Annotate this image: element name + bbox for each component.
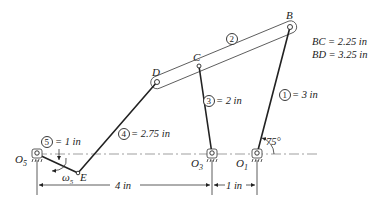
- label-c: C: [193, 51, 201, 63]
- link-3: [199, 66, 212, 154]
- dimension-o3-o1: 1 in: [226, 180, 242, 191]
- label-o3: O3: [191, 157, 203, 172]
- angle-label: 75°: [266, 136, 282, 147]
- note-bc: BC = 2.25 in: [312, 36, 367, 47]
- link-3-length: = 2 in: [216, 95, 242, 106]
- label-e: E: [79, 171, 87, 183]
- dimension-o5-o3: 4 in: [115, 180, 131, 191]
- label-o5: O5: [15, 153, 27, 168]
- link-5-number: 5: [45, 137, 50, 147]
- linkage-diagram: B C D E O5 O3 O1 2 1 = 3 in 3 = 2 in 4 =…: [0, 0, 385, 211]
- link-4-number: 4: [122, 129, 127, 139]
- link-3-number: 3: [207, 96, 212, 106]
- label-o1: O1: [236, 157, 248, 172]
- link-1-length: = 3 in: [292, 89, 318, 100]
- link-2-bar: [151, 21, 297, 89]
- label-d: D: [151, 66, 160, 78]
- omega-5-label: ω5: [62, 171, 74, 186]
- link-5-length: = 1 in: [55, 136, 81, 147]
- joint-c-pin: [197, 64, 201, 68]
- link-1-number: 1: [283, 90, 288, 100]
- joint-b-pin: [288, 25, 293, 30]
- link-2-number: 2: [230, 34, 235, 44]
- joint-d-pin: [155, 80, 160, 85]
- note-bd: BD = 3.25 in: [312, 49, 368, 60]
- link-4-length: = 2.75 in: [131, 128, 170, 139]
- label-b: B: [286, 9, 293, 21]
